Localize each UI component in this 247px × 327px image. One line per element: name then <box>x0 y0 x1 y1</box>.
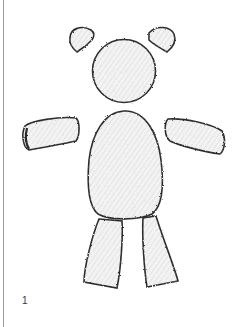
left-leg <box>84 219 122 288</box>
head <box>93 40 156 103</box>
left-ear <box>70 28 94 52</box>
left-arm <box>23 118 79 150</box>
body <box>88 111 162 219</box>
right-arm <box>165 119 224 154</box>
right-ear <box>149 27 175 52</box>
page-number: 1 <box>22 295 28 306</box>
right-leg <box>143 216 178 287</box>
teddy-bear-cutout-figure <box>0 0 247 327</box>
